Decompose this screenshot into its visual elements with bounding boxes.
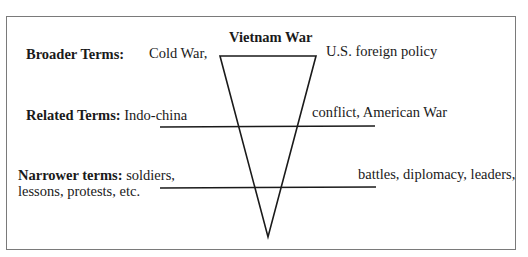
related-terms-right: conflict, American War [312,104,447,120]
broader-terms-right: U.S. foreign policy [326,43,437,59]
inverted-triangle-funnel [220,56,316,237]
narrower-terms-row: Narrower terms: soldiers, [18,167,175,183]
narrower-terms-right: battles, diplomacy, leaders, [358,166,515,182]
narrower-terms-label: Narrower terms: [18,167,123,183]
diagram-title: Vietnam War [229,29,312,45]
related-terms-row: Related Terms: Indo-china [26,107,187,123]
narrower-terms-divider [160,187,376,188]
narrower-terms-left-line2: lessons, protests, etc. [18,183,140,199]
related-terms-left: Indo-china [124,107,187,123]
narrower-terms-left-line1: soldiers, [126,167,175,183]
broader-terms-label: Broader Terms: [26,46,124,62]
related-terms-divider [160,126,375,127]
related-terms-label: Related Terms: [26,107,121,123]
broader-terms-left: Cold War, [149,45,207,61]
